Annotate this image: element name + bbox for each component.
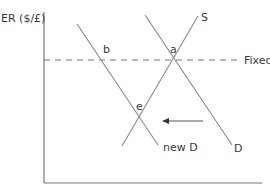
demand-curve [145,15,232,145]
supply-label: S [201,11,208,24]
y-axis-label: ER ($/£) [1,12,45,25]
supply-curve [122,16,198,146]
left-arrow-icon [162,118,203,124]
fixed-rate-label: Fixed rate [244,54,270,67]
new-demand-label: new D [163,141,198,154]
exchange-rate-diagram: ER ($/£) Fixed rate new D D S a b e [0,0,270,189]
point-e-label: e [136,100,143,113]
new-demand-curve [77,24,158,145]
point-a-label: a [170,43,177,56]
demand-label: D [234,142,242,155]
point-b-label: b [103,43,110,56]
